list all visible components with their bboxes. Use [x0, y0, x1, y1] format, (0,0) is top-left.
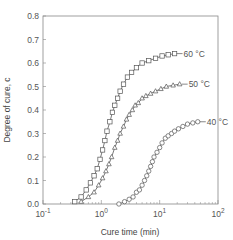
y-axis-title: Degree of cure, c	[2, 77, 12, 143]
triangle-marker	[79, 199, 84, 203]
square-marker	[166, 53, 170, 57]
square-marker	[103, 138, 107, 142]
series-line	[119, 122, 198, 204]
triangle-marker	[96, 183, 101, 187]
square-marker	[172, 51, 176, 55]
square-marker	[125, 75, 129, 79]
triangle-marker	[107, 162, 112, 166]
x-axis-ticks: 10-1100101102	[35, 200, 225, 219]
series-50CC	[79, 82, 182, 204]
square-marker	[153, 56, 157, 60]
square-marker	[134, 66, 138, 70]
y-tick-label: 0.2	[27, 152, 39, 162]
y-tick-label: 0.1	[27, 176, 39, 186]
circle-marker	[191, 121, 195, 125]
y-tick-label: 0.3	[27, 129, 39, 139]
triangle-marker	[177, 82, 182, 86]
plot-frame	[43, 16, 218, 204]
square-marker	[100, 148, 104, 152]
y-tick-label: 0.8	[27, 11, 39, 21]
y-tick-label: 0.0	[27, 199, 39, 209]
triangle-marker	[109, 155, 114, 159]
square-marker	[118, 89, 122, 93]
x-tick-label: 100	[95, 207, 108, 219]
square-marker	[105, 129, 109, 133]
triangle-marker	[121, 124, 126, 128]
circle-marker	[157, 145, 161, 149]
circle-marker	[176, 127, 180, 131]
triangle-marker	[130, 108, 135, 112]
square-marker	[84, 188, 88, 192]
square-marker	[140, 61, 144, 65]
square-marker	[73, 199, 77, 203]
degree-of-cure-chart: 0.00.10.20.30.40.50.60.70.8 10-110010110…	[0, 0, 233, 240]
x-tick-label: 101	[153, 207, 166, 219]
triangle-marker	[100, 176, 105, 180]
triangle-marker	[124, 117, 129, 121]
circle-marker	[140, 183, 144, 187]
series-label: 50 °C	[189, 79, 210, 89]
x-tick-label: 10-1	[35, 207, 51, 219]
triangle-marker	[112, 145, 117, 149]
circle-marker	[181, 124, 185, 128]
square-marker	[160, 54, 164, 58]
circle-marker	[148, 164, 152, 168]
square-marker	[92, 174, 96, 178]
square-marker	[129, 70, 133, 74]
circle-marker	[152, 155, 156, 159]
square-marker	[113, 103, 117, 107]
circle-marker	[185, 122, 189, 126]
circle-marker	[145, 174, 149, 178]
circle-marker	[122, 199, 126, 203]
y-tick-label: 0.7	[27, 35, 39, 45]
square-marker	[108, 120, 112, 124]
circle-marker	[142, 178, 146, 182]
circle-marker	[131, 195, 135, 199]
square-marker	[121, 82, 125, 86]
y-tick-label: 0.4	[27, 105, 39, 115]
triangle-marker	[115, 138, 120, 142]
series-40CC	[117, 120, 200, 207]
circle-marker	[155, 150, 159, 154]
triangle-marker	[118, 131, 123, 135]
x-tick-label: 102	[211, 207, 224, 219]
circle-marker	[196, 120, 200, 124]
circle-marker	[160, 141, 164, 145]
triangle-marker	[104, 169, 109, 173]
circle-marker	[117, 202, 121, 206]
y-tick-label: 0.5	[27, 82, 39, 92]
circle-marker	[137, 188, 141, 192]
x-axis-title: Cure time (min)	[101, 227, 160, 237]
square-marker	[115, 96, 119, 100]
circle-marker	[150, 160, 154, 164]
series-line	[81, 84, 180, 202]
series-label: 40 °C	[207, 117, 228, 127]
square-marker	[88, 181, 92, 185]
series-layer	[73, 51, 200, 206]
square-marker	[95, 167, 99, 171]
square-marker	[110, 110, 114, 114]
circle-marker	[147, 169, 151, 173]
series-labels: 60 °C50 °C40 °C	[177, 49, 229, 127]
series-label: 60 °C	[184, 49, 205, 59]
square-marker	[147, 58, 151, 62]
square-marker	[98, 157, 102, 161]
y-tick-label: 0.6	[27, 58, 39, 68]
